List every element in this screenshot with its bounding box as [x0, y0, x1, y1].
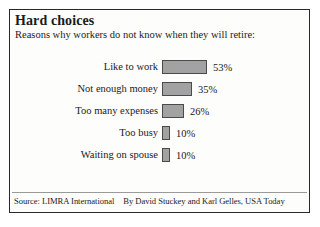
bar-category-label: Like to work: [104, 60, 158, 73]
bar-container: 26%: [162, 104, 209, 118]
bar: [162, 82, 192, 96]
page-title: Hard choices: [15, 13, 94, 28]
bar-chart: Like to work53%Not enough money35%Too ma…: [10, 57, 309, 167]
chart-row: Too busy10%: [10, 123, 309, 145]
bar-value-label: 26%: [190, 105, 209, 118]
infographic-panel: Hard choices Reasons why workers do not …: [9, 9, 310, 213]
bar: [162, 148, 170, 162]
bar-container: 53%: [162, 60, 232, 74]
chart-subtitle: Reasons why workers do not know when the…: [15, 29, 255, 41]
bar-category-label: Waiting on spouse: [81, 148, 158, 161]
bar-container: 10%: [162, 126, 195, 140]
chart-row: Waiting on spouse10%: [10, 145, 309, 167]
source-line: Source: LIMRA InternationalBy David Stuc…: [14, 196, 307, 207]
chart-row: Like to work53%: [10, 57, 309, 79]
bar: [162, 126, 170, 140]
bar-container: 35%: [162, 82, 217, 96]
bar-category-label: Not enough money: [78, 82, 159, 95]
bar-container: 10%: [162, 148, 195, 162]
bar-value-label: 10%: [176, 127, 195, 140]
bar: [162, 104, 184, 118]
bar-category-label: Too many expenses: [75, 104, 158, 117]
bar-value-label: 10%: [176, 149, 195, 162]
bar-category-label: Too busy: [119, 126, 158, 139]
bar-value-label: 35%: [198, 83, 217, 96]
source-divider: [12, 192, 307, 193]
bar-value-label: 53%: [213, 61, 232, 74]
chart-row: Not enough money35%: [10, 79, 309, 101]
source-byline: By David Stuckey and Karl Gelles, USA To…: [123, 196, 284, 206]
bar: [162, 60, 207, 74]
source-credit: Source: LIMRA International: [14, 196, 114, 206]
chart-row: Too many expenses26%: [10, 101, 309, 123]
